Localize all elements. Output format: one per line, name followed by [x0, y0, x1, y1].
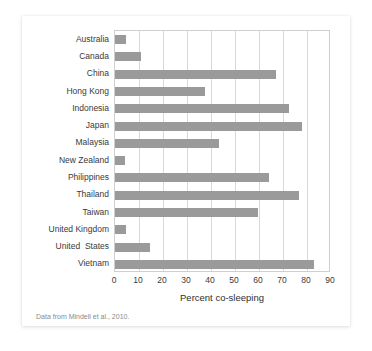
bar-row [115, 121, 329, 131]
bar-row [115, 35, 329, 45]
bar [115, 70, 276, 79]
category-label: Hong Kong [66, 87, 109, 96]
bar [115, 260, 314, 269]
category-label: Australia [76, 35, 109, 44]
source-note: Data from Mindell et al., 2010. [36, 313, 129, 320]
x-tick-label: 40 [200, 276, 220, 285]
x-tick-label: 50 [224, 276, 244, 285]
bar-chart: AustraliaCanadaChinaHong KongIndonesiaJa… [22, 16, 350, 326]
x-tick-label: 60 [248, 276, 268, 285]
x-tick-label: 10 [128, 276, 148, 285]
bar [115, 52, 141, 61]
x-tick-label: 80 [296, 276, 316, 285]
bar-row [115, 104, 329, 114]
category-label: China [87, 69, 109, 78]
bar [115, 156, 125, 165]
bar [115, 191, 299, 200]
category-label: Malaysia [75, 138, 109, 147]
bar-row [115, 208, 329, 218]
category-label: Taiwan [83, 208, 109, 217]
bar-row [115, 190, 329, 200]
x-axis-title: Percent co-sleeping [114, 293, 330, 303]
bar-row [115, 138, 329, 148]
category-label: New Zealand [59, 156, 109, 165]
bar [115, 104, 289, 113]
x-tick-label: 20 [152, 276, 172, 285]
bar-row [115, 173, 329, 183]
bar-row [115, 87, 329, 97]
bar-row [115, 259, 329, 269]
bar [115, 35, 126, 44]
category-label: Indonesia [72, 104, 109, 113]
bar-row [115, 225, 329, 235]
category-label: Thailand [76, 190, 109, 199]
category-label: United States [56, 242, 109, 251]
category-label: United Kingdom [49, 225, 109, 234]
x-tick-label: 30 [176, 276, 196, 285]
bar [115, 243, 150, 252]
category-label: Japan [86, 121, 109, 130]
bar [115, 139, 219, 148]
category-label: Canada [79, 52, 109, 61]
bar-row [115, 156, 329, 166]
bar [115, 173, 269, 182]
bar [115, 208, 258, 217]
bar-row [115, 52, 329, 62]
bar-series [115, 31, 329, 271]
bar-row [115, 242, 329, 252]
plot-area [114, 30, 330, 272]
category-label: Vietnam [78, 259, 109, 268]
bar [115, 87, 205, 96]
figure-card: AustraliaCanadaChinaHong KongIndonesiaJa… [22, 16, 350, 326]
x-tick-label: 70 [272, 276, 292, 285]
bar [115, 225, 126, 234]
x-tick-label: 90 [320, 276, 340, 285]
category-label: Philippines [68, 173, 109, 182]
x-tick-label: 0 [104, 276, 124, 285]
bar [115, 122, 302, 131]
bar-row [115, 69, 329, 79]
